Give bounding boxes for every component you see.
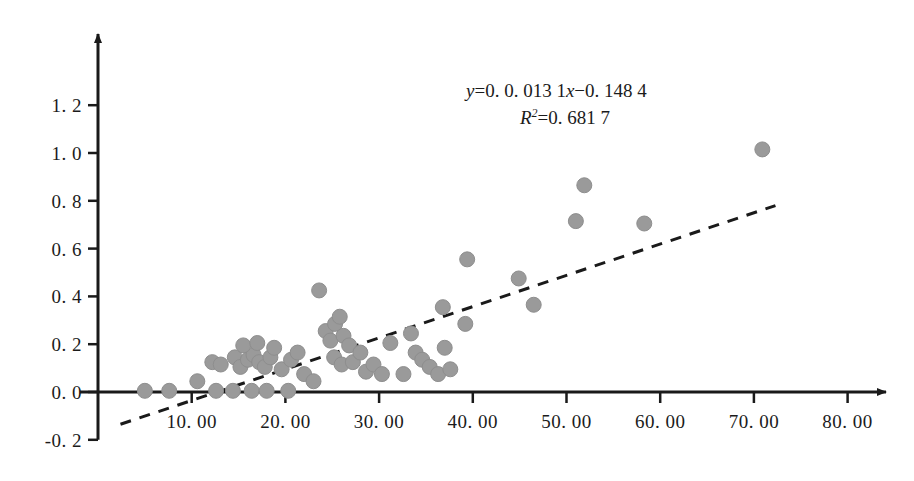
data-point <box>460 252 475 267</box>
equation-tail: −0. 148 4 <box>574 80 646 101</box>
data-point <box>396 367 411 382</box>
data-point <box>437 340 452 355</box>
data-point <box>383 336 398 351</box>
y-tick-label-0: -0. 2 <box>45 430 82 449</box>
plot-canvas <box>0 0 914 481</box>
data-point <box>236 338 251 353</box>
data-point <box>213 357 228 372</box>
data-point <box>403 326 418 341</box>
r-squared-value: =0. 681 7 <box>538 107 610 128</box>
equation-body: =0. 0. 013 1 <box>474 80 565 101</box>
data-point <box>332 309 347 324</box>
data-point <box>312 283 327 298</box>
data-points <box>137 142 769 398</box>
data-point <box>458 316 473 331</box>
x-tick-label-4: 50. 00 <box>541 412 592 431</box>
y-tick-label-5: 0. 8 <box>52 191 83 210</box>
y-tick-label-2: 0. 2 <box>52 335 83 354</box>
data-point <box>306 374 321 389</box>
scatter-chart-figure: -0. 20. 00. 20. 40. 60. 81. 01. 2 10. 00… <box>0 0 914 481</box>
data-point <box>290 345 305 360</box>
x-tick-label-0: 10. 00 <box>166 412 217 431</box>
data-point <box>267 340 282 355</box>
data-point <box>281 383 296 398</box>
data-point <box>443 362 458 377</box>
data-point <box>755 142 770 157</box>
data-point <box>190 374 205 389</box>
y-tick-label-6: 1. 0 <box>52 144 83 163</box>
x-tick-label-7: 80. 00 <box>822 412 873 431</box>
regression-equation-annotation: y=0. 0. 013 1x−0. 148 4 <box>466 78 647 104</box>
data-point <box>162 383 177 398</box>
data-point <box>353 345 368 360</box>
y-tick-label-1: 0. 0 <box>52 383 83 402</box>
data-point <box>568 214 583 229</box>
x-tick-label-2: 30. 00 <box>354 412 405 431</box>
x-tick-label-6: 70. 00 <box>729 412 780 431</box>
x-tick-label-1: 20. 00 <box>260 412 311 431</box>
data-point <box>225 383 240 398</box>
data-point <box>511 271 526 286</box>
y-tick-label-7: 1. 2 <box>52 96 83 115</box>
r-squared-annotation: R2=0. 681 7 <box>520 105 610 131</box>
y-tick-label-4: 0. 6 <box>52 239 83 258</box>
data-point <box>137 383 152 398</box>
data-point <box>637 216 652 231</box>
data-point <box>250 336 265 351</box>
data-point <box>526 297 541 312</box>
r-squared-symbol: R <box>520 107 532 128</box>
data-point <box>244 383 259 398</box>
y-tick-label-3: 0. 4 <box>52 287 83 306</box>
data-point <box>577 178 592 193</box>
data-point <box>259 383 274 398</box>
data-point <box>209 383 224 398</box>
x-tick-label-5: 60. 00 <box>635 412 686 431</box>
data-point <box>435 300 450 315</box>
x-tick-label-3: 40. 00 <box>448 412 499 431</box>
data-point <box>374 367 389 382</box>
